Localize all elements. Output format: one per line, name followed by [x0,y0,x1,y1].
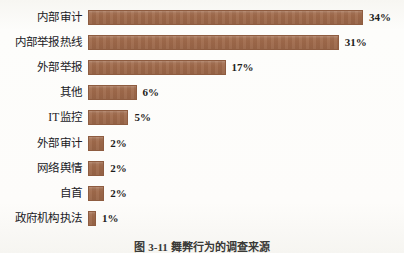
bar [88,136,104,151]
figure-caption: 图 3-11 舞弊行为的调查来源 [0,241,404,253]
value-label: 2% [110,187,127,200]
value-label: 31% [345,36,367,49]
value-label: 5% [134,111,151,124]
bar-with-value: 5% [88,110,151,126]
category-label: 外部举报 [0,61,82,74]
bar [88,211,96,226]
bar [88,110,128,125]
bar-row: 政府机构执法1% [0,211,404,227]
category-label: 政府机构执法 [0,212,82,225]
bar-with-value: 6% [88,85,159,101]
category-label: 外部审计 [0,137,82,150]
bar [88,161,104,176]
value-label: 6% [143,86,160,99]
bar-row: 外部举报17% [0,59,404,75]
figure-container: 内部审计34%内部举报热线31%外部举报17%其他6%IT监控5%外部审计2%网… [0,0,404,253]
bar-chart: 内部审计34%内部举报热线31%外部举报17%其他6%IT监控5%外部审计2%网… [0,0,404,232]
bar-with-value: 2% [88,185,127,201]
category-label: 网络舆情 [0,162,82,175]
bar-row: 网络舆情2% [0,160,404,176]
category-label: IT监控 [0,111,82,124]
value-label: 2% [110,162,127,175]
value-label: 34% [369,11,391,24]
category-label: 内部举报热线 [0,36,82,49]
bar-with-value: 2% [88,160,127,176]
bar [88,186,104,201]
category-label: 内部审计 [0,11,82,24]
bar [88,10,363,25]
bar [88,60,226,75]
bar-with-value: 31% [88,34,367,50]
category-label: 自首 [0,187,82,200]
bar-row: 内部举报热线31% [0,34,404,50]
bar-row: 外部审计2% [0,135,404,151]
value-label: 1% [102,212,119,225]
bar-row: 自首2% [0,185,404,201]
bar-row: IT监控5% [0,110,404,126]
bar-row: 内部审计34% [0,9,404,25]
bar [88,85,137,100]
value-label: 2% [110,137,127,150]
bar-row: 其他6% [0,85,404,101]
category-label: 其他 [0,86,82,99]
bar-with-value: 2% [88,135,127,151]
bar [88,35,339,50]
value-label: 17% [232,61,254,74]
bar-with-value: 1% [88,211,119,227]
bar-with-value: 34% [88,9,391,25]
bar-with-value: 17% [88,59,254,75]
